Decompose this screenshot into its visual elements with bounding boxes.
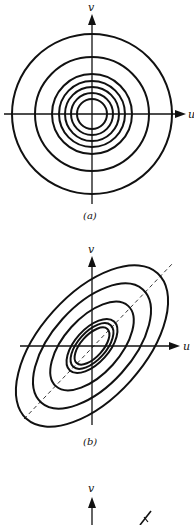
u-axis-arrow-icon [169,342,180,350]
panel-c: v [88,482,151,525]
v-axis-label: v [88,482,95,495]
v-axis-label: v [88,1,95,14]
v-axis-arrow-icon [88,14,96,25]
caption-a: (a) [83,210,97,221]
partial-contour-strokes [140,511,151,525]
panel-a: v u (a) [4,1,194,221]
u-axis-arrow-icon [175,110,186,118]
u-axis-label: u [183,340,190,353]
caption-b: (b) [83,436,97,447]
v-axis-arrow-icon [88,256,96,267]
u-axis-label: u [188,108,194,121]
contour-figure: v u (a) v u (b) v [0,0,194,525]
panel-b: v u (b) [0,238,194,453]
v-axis-label: v [88,243,95,256]
